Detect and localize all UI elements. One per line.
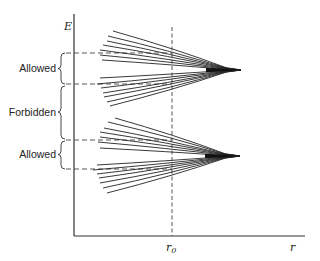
braces bbox=[58, 53, 65, 169]
band-label-forbidden: Forbidden bbox=[9, 106, 56, 118]
energy-band-diagram: E r r0 Allowed Forbidden Allowed bbox=[0, 0, 320, 261]
energy-level-line bbox=[110, 70, 241, 106]
energy-level-line bbox=[102, 60, 241, 70]
brace-allowed-top bbox=[58, 53, 65, 84]
energy-level-line bbox=[108, 122, 240, 156]
fan-lower-level bbox=[93, 118, 240, 193]
brace-forbidden bbox=[58, 86, 65, 139]
y-axis-label: E bbox=[63, 20, 72, 33]
r0-tick-label: r0 bbox=[166, 241, 176, 255]
energy-level-line bbox=[107, 156, 240, 193]
band-label-allowed-top: Allowed bbox=[19, 62, 56, 74]
r0-subscript: 0 bbox=[171, 246, 176, 255]
fan-upper-level bbox=[97, 31, 241, 106]
energy-level-line bbox=[115, 118, 240, 156]
band-boundaries bbox=[66, 53, 172, 169]
energy-level-line bbox=[113, 31, 241, 70]
brace-allowed-bottom bbox=[58, 141, 65, 169]
x-axis-label: r bbox=[290, 241, 296, 254]
energy-level-line bbox=[107, 70, 241, 102]
band-label-allowed-bottom: Allowed bbox=[19, 148, 56, 160]
